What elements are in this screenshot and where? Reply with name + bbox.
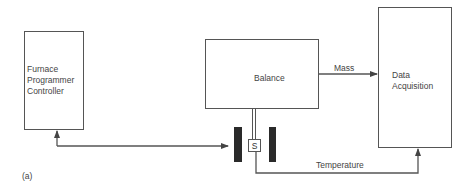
heater-right-bar xyxy=(269,127,276,162)
balance-label: Balance xyxy=(254,73,285,84)
panel-label: (a) xyxy=(22,171,32,182)
data-acquisition-label-line-1: Data xyxy=(392,70,410,81)
data-acquisition-box: Data Acquisition xyxy=(378,7,452,148)
furnace-heater-connector xyxy=(57,131,228,146)
furnace-label-line-2: Programmer xyxy=(27,75,74,86)
heater-left-bar xyxy=(234,127,242,162)
balance-box: Balance xyxy=(205,39,319,109)
sample-box: S xyxy=(248,139,261,152)
furnace-label-line-1: Furnace xyxy=(27,64,58,75)
furnace-label-line-3: Controller xyxy=(27,86,64,97)
data-acquisition-label-line-2: Acquisition xyxy=(392,81,433,92)
sample-label: S xyxy=(252,141,258,151)
furnace-programmer-controller-box: Furnace Programmer Controller xyxy=(24,31,84,130)
mass-label: Mass xyxy=(334,63,354,74)
temperature-label: Temperature xyxy=(316,160,364,171)
balance-suspension-wire xyxy=(253,108,256,139)
